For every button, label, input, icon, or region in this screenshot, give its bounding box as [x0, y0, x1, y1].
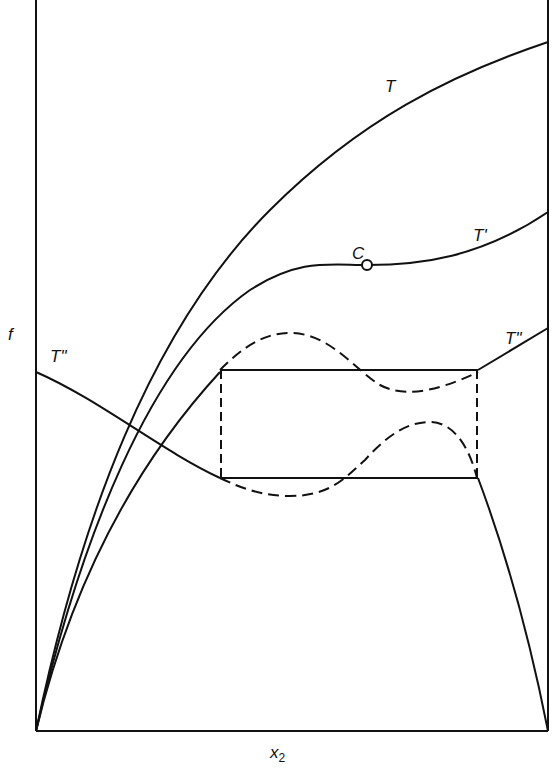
curve-T-double-prime-right-lower — [478, 478, 548, 731]
label-T-double-prime-left: T" — [50, 348, 66, 365]
curve-T-double-prime-left — [36, 372, 220, 478]
label-T-prime: T' — [473, 227, 487, 244]
label-T: T — [385, 78, 395, 95]
x-axis-label: x2 — [270, 744, 285, 764]
label-C: C — [352, 245, 364, 262]
curve-T-prime — [36, 212, 548, 731]
y-axis-label: f — [8, 326, 13, 343]
curve-T — [36, 42, 548, 731]
phase-diagram — [0, 0, 555, 769]
label-T-double-prime-right: T" — [505, 330, 521, 347]
dashed-curve-lower — [220, 422, 477, 496]
dashed-curve-upper — [220, 333, 478, 392]
